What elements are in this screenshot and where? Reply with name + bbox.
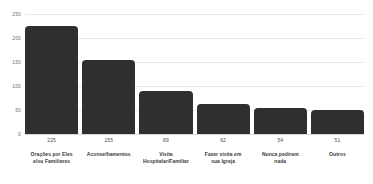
bar[interactable] [139,91,192,134]
y-axis-tick-label: 200 [12,36,21,41]
bar[interactable] [82,60,135,134]
axis-label-group: 155Aconselhamentos [82,134,135,166]
axis-label-group: 54Nunca pediram nada [254,134,307,166]
category-label: Aconselhamentos [82,151,135,158]
category-label: Fazer visita em sua Igreja [197,151,250,166]
axis-labels-row: 225Orações por Eles e/ou Familiares155Ac… [25,134,364,166]
category-label: Outros [311,151,364,158]
bar-slot [197,14,250,134]
y-axis-tick-label: 150 [12,60,21,65]
category-label: Nunca pediram nada [254,151,307,166]
bars-layer [25,14,364,134]
bar-value-label: 62 [197,138,250,143]
axis-label-group: 225Orações por Eles e/ou Familiares [25,134,78,166]
y-axis-tick-label: 100 [12,84,21,89]
bar[interactable] [25,26,78,134]
y-axis-tick-label: 50 [15,108,21,113]
bar-chart: 050100150200250 225Orações por Eles e/ou… [0,0,373,184]
bar-value-label: 155 [82,138,135,143]
axis-label-group: 51Outros [311,134,364,166]
bar-slot [139,14,192,134]
bar-slot [311,14,364,134]
bar-slot [25,14,78,134]
y-axis-tick-label: 250 [12,12,21,17]
bar[interactable] [197,104,250,134]
category-label: Orações por Eles e/ou Familiares [25,151,78,166]
bar-slot [82,14,135,134]
axis-label-group: 62Fazer visita em sua Igreja [197,134,250,166]
bar-value-label: 225 [25,138,78,143]
category-label: Visita Hospitalar/Familiar [139,151,192,166]
y-axis-tick-label: 0 [18,132,21,137]
bar-value-label: 89 [139,138,192,143]
bar-slot [254,14,307,134]
plot-area: 050100150200250 [25,14,364,134]
bar-value-label: 51 [311,138,364,143]
axis-label-group: 89Visita Hospitalar/Familiar [139,134,192,166]
bar-value-label: 54 [254,138,307,143]
bar[interactable] [311,110,364,134]
bar[interactable] [254,108,307,134]
